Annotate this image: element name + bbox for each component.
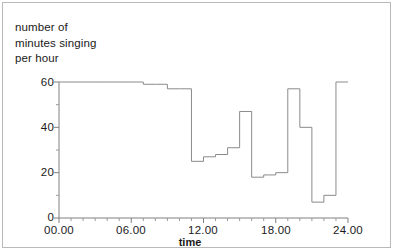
y-tick-label-40: 40 bbox=[24, 121, 54, 133]
y-axis-caption-line-2: minutes singing bbox=[15, 36, 165, 52]
x-tick-label-1200: 12.00 bbox=[173, 224, 233, 236]
y-tick-label-60: 60 bbox=[24, 76, 54, 88]
x-axis-ticks bbox=[59, 218, 348, 223]
x-tick-label-2400: 24.00 bbox=[318, 224, 378, 236]
y-axis-caption-line-1: number of bbox=[15, 20, 165, 36]
y-tick-label-0: 0 bbox=[24, 211, 54, 223]
y-tick-label-20: 20 bbox=[24, 166, 54, 178]
x-tick-label-0000: 00.00 bbox=[29, 224, 89, 236]
step-line-series bbox=[59, 82, 348, 202]
x-tick-label-0600: 06.00 bbox=[101, 224, 161, 236]
y-axis-caption-line-3: per hour bbox=[15, 51, 165, 67]
y-axis-ticks bbox=[54, 82, 59, 218]
chart-figure: number of minutes singing per hour 60 40… bbox=[0, 0, 394, 251]
axes-group bbox=[59, 82, 348, 218]
y-axis-caption: number of minutes singing per hour bbox=[15, 20, 165, 67]
x-axis-title: time bbox=[160, 236, 220, 248]
x-tick-label-1800: 18.00 bbox=[246, 224, 306, 236]
page-root: number of minutes singing per hour 60 40… bbox=[0, 0, 394, 251]
